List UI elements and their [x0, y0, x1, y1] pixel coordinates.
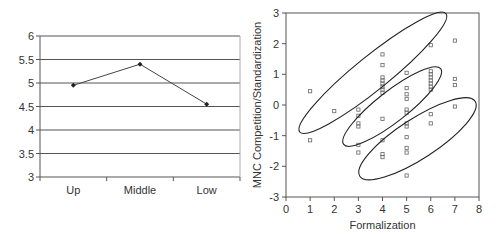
scatter-point — [405, 97, 408, 100]
y-tick-label: 3.5 — [19, 148, 34, 160]
scatter-point — [429, 44, 432, 47]
x-tick-label: 7 — [452, 203, 458, 215]
x-tick-label: 4 — [379, 203, 385, 215]
x-tick-label: 3 — [355, 203, 361, 215]
scatter-point — [309, 90, 312, 93]
x-category-label: Low — [197, 184, 217, 196]
y-tick-label: -2 — [269, 160, 279, 172]
y-tick-label: 3 — [273, 7, 279, 19]
scatter-point — [405, 146, 408, 149]
scatter-point — [357, 151, 360, 154]
y-tick-label: 4.5 — [19, 101, 34, 113]
x-tick-label: 1 — [307, 203, 313, 215]
scatter-point — [357, 108, 360, 111]
scatter-point — [405, 93, 408, 96]
y-tick-label: 4 — [28, 124, 34, 136]
y-tick-label: 1 — [273, 68, 279, 80]
scatter-point — [453, 83, 456, 86]
y-tick-label: -3 — [269, 191, 279, 203]
scatter-point — [405, 87, 408, 90]
scatter-point — [333, 110, 336, 113]
scatter-point — [405, 151, 408, 154]
y-tick-label: 5.5 — [19, 54, 34, 66]
scatter-point — [429, 122, 432, 125]
scatter-point — [405, 71, 408, 74]
y-tick-label: 0 — [273, 99, 279, 111]
scatter-point — [381, 117, 384, 120]
data-marker — [204, 102, 209, 107]
y-tick-label: 2 — [273, 38, 279, 50]
scatter-point — [453, 77, 456, 80]
scatter-point — [429, 113, 432, 116]
y-tick-label: 5 — [28, 77, 34, 89]
x-tick-label: 6 — [428, 203, 434, 215]
x-tick-label: 8 — [476, 203, 482, 215]
charts-figure: 33.544.555.56UpMiddleLow -3-2-1012301234… — [0, 0, 498, 234]
plot-area — [286, 13, 479, 197]
y-axis-title: MNC Competition/Standardization — [251, 22, 263, 188]
x-tick-label: 0 — [283, 203, 289, 215]
data-marker — [71, 83, 76, 88]
data-marker — [138, 62, 143, 67]
scatter-point — [381, 64, 384, 67]
x-category-label: Up — [66, 184, 80, 196]
scatter-point — [405, 136, 408, 139]
y-tick-label: 3 — [28, 171, 34, 183]
line-chart: 33.544.555.56UpMiddleLow — [19, 30, 240, 196]
x-tick-label: 5 — [404, 203, 410, 215]
scatter-point — [453, 105, 456, 108]
scatter-point — [381, 53, 384, 56]
cluster-ellipse — [349, 85, 486, 193]
scatter-point — [309, 139, 312, 142]
scatter-chart: -3-2-10123012345678FormalizationMNC Comp… — [251, 0, 486, 231]
data-line — [73, 64, 206, 104]
y-tick-label: 6 — [28, 30, 34, 42]
y-tick-label: -1 — [269, 130, 279, 142]
x-category-label: Middle — [124, 184, 156, 196]
scatter-point — [453, 39, 456, 42]
x-axis-title: Formalization — [349, 219, 415, 231]
x-tick-label: 2 — [331, 203, 337, 215]
scatter-point — [405, 174, 408, 177]
